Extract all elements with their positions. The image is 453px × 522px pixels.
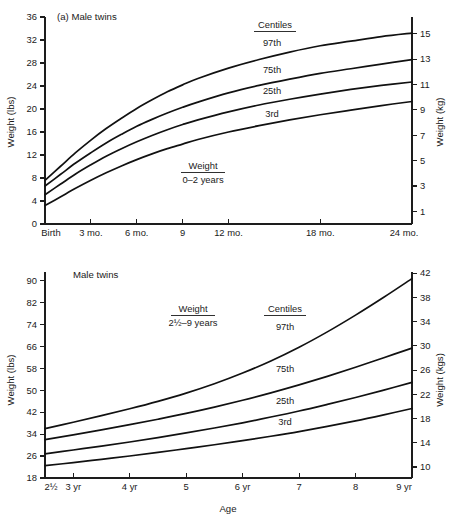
centile-curve-3rd bbox=[45, 409, 412, 466]
y-axis-tick-label: 20 bbox=[27, 103, 37, 114]
annotation-line-2: 2½–9 years bbox=[169, 317, 218, 328]
left-axis-title: Weight (lbs) bbox=[5, 96, 16, 147]
y2-axis-tick-label: 34 bbox=[420, 316, 430, 327]
centile-curve-25th bbox=[45, 82, 412, 195]
x-axis-tick-label: 5 bbox=[184, 481, 189, 492]
panel-title: (a) Male twins bbox=[57, 11, 117, 22]
y2-axis-tick-label: 11 bbox=[420, 79, 430, 90]
y2-axis-tick-label: 10 bbox=[420, 461, 430, 472]
y-axis-tick-label: 4 bbox=[32, 195, 37, 206]
y-axis-tick-label: 50 bbox=[27, 385, 37, 396]
x-axis-tick-label: 8 bbox=[353, 481, 358, 492]
annotation-line-1: Weight bbox=[178, 303, 207, 314]
y-axis-tick-label: 82 bbox=[27, 297, 37, 308]
y2-axis-tick-label: 13 bbox=[420, 53, 430, 64]
centile-label-97th: 97th bbox=[276, 321, 294, 332]
annotation-line-1: Weight bbox=[188, 160, 217, 171]
centile-curve-75th bbox=[45, 60, 412, 187]
left-and-bottom-axis-spine bbox=[45, 17, 412, 224]
x-axis-tick-label: 4 yr bbox=[122, 481, 138, 492]
centile-curve-97th bbox=[45, 33, 412, 180]
y2-axis-tick-label: 15 bbox=[420, 28, 430, 39]
x-axis-tick-label: 6 mo. bbox=[125, 227, 148, 238]
y-axis-tick-label: 18 bbox=[27, 472, 37, 483]
centile-curve-3rd bbox=[45, 102, 412, 206]
x-axis-tick-label: 18 mo. bbox=[306, 227, 335, 238]
y2-axis-tick-label: 5 bbox=[420, 155, 425, 166]
x-axis-tick-label: 3 yr bbox=[65, 481, 81, 492]
y-axis-tick-label: 26 bbox=[27, 450, 37, 461]
y-axis-tick-label: 0 bbox=[32, 218, 37, 229]
y-axis-tick-label: 12 bbox=[27, 149, 37, 160]
y-axis-tick-label: 90 bbox=[27, 275, 37, 286]
y2-axis-tick-label: 1 bbox=[420, 206, 425, 217]
y-axis-tick-label: 34 bbox=[27, 428, 37, 439]
centile-label-3rd: 3rd bbox=[278, 416, 292, 427]
y-axis-tick-label: 66 bbox=[27, 341, 37, 352]
centile-label-75th: 75th bbox=[276, 363, 294, 374]
right-axis-title: Weight (kgs) bbox=[434, 353, 445, 407]
x-axis-tick-label: 24 mo. bbox=[390, 227, 419, 238]
x-axis-tick-label: 2½ bbox=[44, 481, 57, 492]
panel-title: Male twins bbox=[73, 269, 119, 280]
y-axis-tick-label: 24 bbox=[27, 80, 37, 91]
centiles-header: Centiles bbox=[268, 303, 302, 314]
centile-label-97th: 97th bbox=[263, 37, 281, 48]
centile-label-25th: 25th bbox=[276, 395, 294, 406]
child-weight-chart: 182634425058667482901014182226303438422½… bbox=[0, 252, 453, 522]
centile-curve-97th bbox=[45, 279, 412, 429]
y2-axis-tick-label: 42 bbox=[420, 267, 430, 278]
x-axis-tick-label: 3 mo. bbox=[79, 227, 102, 238]
y2-axis-tick-label: 30 bbox=[420, 340, 430, 351]
centile-label-75th: 75th bbox=[263, 64, 281, 75]
annotation-line-2: 0–2 years bbox=[182, 174, 223, 185]
x-axis-tick-label: 12 mo. bbox=[214, 227, 243, 238]
y-axis-tick-label: 16 bbox=[27, 126, 37, 137]
x-axis-tick-label: Birth bbox=[41, 227, 60, 238]
y-axis-tick-label: 42 bbox=[27, 406, 37, 417]
y2-axis-tick-label: 14 bbox=[420, 437, 430, 448]
y2-axis-tick-label: 22 bbox=[420, 389, 430, 400]
x-axis-tick-label: 6 yr bbox=[235, 481, 251, 492]
y-axis-tick-label: 58 bbox=[27, 363, 37, 374]
y-axis-tick-label: 32 bbox=[27, 34, 37, 45]
y-axis-tick-label: 74 bbox=[27, 319, 37, 330]
right-axis-title: Weight (kg) bbox=[434, 98, 445, 147]
y2-axis-tick-label: 18 bbox=[420, 413, 430, 424]
centiles-header: Centiles bbox=[258, 19, 292, 30]
x-axis-tick-label: 9 bbox=[180, 227, 185, 238]
y2-axis-tick-label: 9 bbox=[420, 104, 425, 115]
y-axis-tick-label: 8 bbox=[32, 172, 37, 183]
y-axis-tick-label: 28 bbox=[27, 57, 37, 68]
y-axis-tick-label: 36 bbox=[27, 11, 37, 22]
y2-axis-tick-label: 3 bbox=[420, 180, 425, 191]
infant-weight-chart: 0481216202428323613579111315Birth3 mo.6 … bbox=[0, 0, 453, 252]
child-weight-panel: 182634425058667482901014182226303438422½… bbox=[0, 252, 453, 522]
infant-weight-panel: 0481216202428323613579111315Birth3 mo.6 … bbox=[0, 0, 453, 252]
growth-charts-figure: 0481216202428323613579111315Birth3 mo.6 … bbox=[0, 0, 453, 522]
left-axis-title: Weight (lbs) bbox=[5, 354, 16, 405]
y2-axis-tick-label: 38 bbox=[420, 292, 430, 303]
x-axis-title: Age bbox=[219, 503, 236, 514]
centile-label-25th: 25th bbox=[263, 85, 281, 96]
centile-label-3rd: 3rd bbox=[265, 108, 279, 119]
y2-axis-tick-label: 26 bbox=[420, 364, 430, 375]
y2-axis-tick-label: 7 bbox=[420, 130, 425, 141]
x-axis-tick-label: 9 yr bbox=[396, 481, 412, 492]
x-axis-tick-label: 7 bbox=[296, 481, 301, 492]
